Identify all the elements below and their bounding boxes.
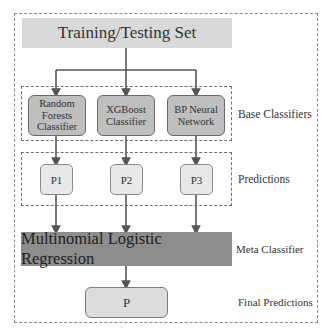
- meta-classifier-label: Meta Classifier: [236, 243, 304, 255]
- node-line: Forests: [37, 110, 77, 122]
- final-prediction-box: P: [85, 287, 168, 318]
- prediction-label: P1: [51, 174, 63, 186]
- prediction-p1-box: P1: [40, 164, 73, 195]
- node-line: Classifier: [37, 121, 77, 133]
- final-prediction-name: P: [123, 295, 130, 311]
- base-classifiers-label: Base Classifiers: [238, 108, 312, 120]
- xgboost-box: XGBoost Classifier: [97, 95, 155, 136]
- meta-classifier-box: Multinomial Logistic Regression: [21, 232, 232, 266]
- random-forests-box: Random Forests Classifier: [28, 95, 86, 136]
- node-line: XGBoost: [106, 104, 146, 116]
- node-line: Network: [174, 116, 218, 128]
- final-predictions-label: Final Predictions: [238, 296, 313, 308]
- node-line: BP Neural: [174, 104, 218, 116]
- node-line: Random: [37, 98, 77, 110]
- meta-classifier-name: Multinomial Logistic Regression: [21, 229, 232, 269]
- prediction-label: P3: [191, 174, 203, 186]
- prediction-p2-box: P2: [110, 164, 143, 195]
- prediction-label: P2: [121, 174, 133, 186]
- node-line: Classifier: [106, 116, 146, 128]
- predictions-label: Predictions: [238, 173, 290, 185]
- bp-neural-network-box: BP Neural Network: [167, 95, 225, 136]
- prediction-p3-box: P3: [180, 164, 213, 195]
